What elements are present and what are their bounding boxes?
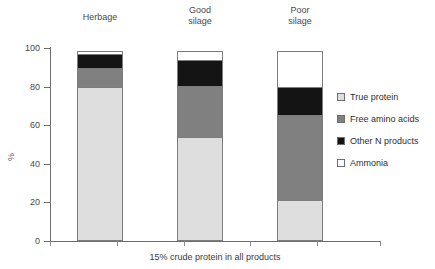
category-label-herbage: Herbage <box>58 12 142 23</box>
y-axis-title: % <box>6 140 16 174</box>
x-tick-1 <box>117 241 118 246</box>
bar-poor-silage <box>277 51 323 241</box>
y-tick-label-40: 40 <box>14 160 40 169</box>
bar-herbage <box>77 51 123 241</box>
legend-item: Ammonia <box>337 154 435 172</box>
legend-item-label: Free amino acids <box>350 114 419 124</box>
bar-segment <box>277 200 323 241</box>
legend-item-label: Ammonia <box>350 158 388 168</box>
legend-item-label: Other N products <box>350 136 419 146</box>
bar-segment <box>77 87 123 241</box>
legend-swatch-icon <box>337 93 345 101</box>
y-tick-label-100: 100 <box>14 44 40 53</box>
plot-area <box>50 48 330 241</box>
legend-swatch-icon <box>337 137 345 145</box>
bar-segment <box>77 68 123 87</box>
y-tick-label-60: 60 <box>14 121 40 130</box>
bar-segment <box>277 87 323 116</box>
y-tick-label-0: 0 <box>14 237 40 246</box>
bar-segment <box>177 86 223 138</box>
legend-item: True protein <box>337 88 435 106</box>
chart-legend: True proteinFree amino acidsOther N prod… <box>337 88 435 176</box>
bar-segment <box>277 115 323 202</box>
bar-segment <box>77 54 123 69</box>
x-axis-title: 15% crude protein in all products <box>50 252 380 262</box>
bar-good-silage <box>177 51 223 241</box>
legend-item-label: True protein <box>350 92 398 102</box>
bar-segment <box>277 51 323 88</box>
y-tick-label-80: 80 <box>14 83 40 92</box>
stacked-bar-chart: Herbage Good silage Poor silage 02040608… <box>0 0 435 269</box>
legend-item: Other N products <box>337 132 435 150</box>
legend-swatch-icon <box>337 115 345 123</box>
bar-segment <box>177 60 223 87</box>
x-tick-2 <box>184 241 185 246</box>
legend-swatch-icon <box>337 159 345 167</box>
x-tick-3 <box>250 241 251 246</box>
x-tick-0 <box>50 241 51 246</box>
legend-item: Free amino acids <box>337 110 435 128</box>
x-tick-4 <box>317 241 318 246</box>
category-label-good-silage: Good silage <box>158 5 242 27</box>
category-label-poor-silage: Poor silage <box>258 5 342 27</box>
bar-segment <box>177 137 223 241</box>
x-tick-5 <box>380 241 381 246</box>
x-axis-line <box>50 241 380 242</box>
y-tick-label-20: 20 <box>14 198 40 207</box>
